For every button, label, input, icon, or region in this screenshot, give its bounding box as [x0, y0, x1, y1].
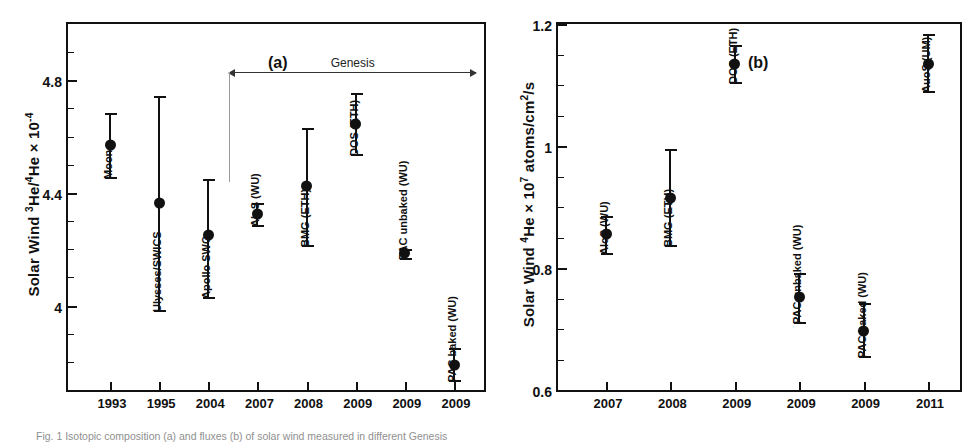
y-axis-tick-minor	[68, 108, 74, 109]
x-axis-tick: 2011	[928, 382, 930, 390]
panel-a-plot-area: (a) 44.44.819931995200420072008200920092…	[66, 22, 486, 392]
x-axis-tick-label: 2009	[343, 396, 372, 411]
error-bar-cap-upper	[665, 149, 677, 151]
figure-caption: Fig. 1 Isotopic composition (a) and flux…	[36, 430, 956, 444]
y-axis-tick-minor	[558, 329, 564, 330]
data-point-label: BMG (ETH)	[299, 189, 311, 247]
y-axis-tick-minor	[68, 221, 74, 222]
y-axis-tick-minor	[68, 249, 74, 250]
y-axis-tick-minor	[558, 116, 564, 117]
x-axis-tick-label: 2008	[294, 396, 323, 411]
data-point-label: PAC unbaked (WU)	[791, 224, 803, 323]
error-bar-cap-upper	[105, 113, 117, 115]
y-axis-tick-label: 4.4	[43, 187, 62, 203]
y-axis-tick-label: 4.8	[43, 74, 62, 90]
data-point-label: PAC baked (WU)	[446, 296, 458, 382]
y-axis-tick-minor	[68, 362, 74, 363]
x-axis-tick-label: 2007	[594, 396, 623, 411]
y-axis-tick-label: 4	[54, 300, 62, 316]
data-point-label: Apollo SWC	[200, 236, 212, 299]
panel-b-tag: (b)	[748, 54, 768, 72]
y-axis-tick-major: 4	[68, 306, 77, 308]
data-point-label: PAC unbaked (WU)	[397, 160, 409, 259]
x-axis-tick: 2008	[307, 382, 309, 390]
y-axis-tick-major: 4.8	[68, 80, 77, 82]
data-point-label: AloS (WU)	[598, 201, 610, 255]
y-axis-tick-major: 0.8	[558, 268, 567, 270]
data-point-label: AloS (WU)	[249, 174, 261, 228]
panel-a-tag: (a)	[268, 54, 288, 72]
x-axis-tick: 2009	[799, 382, 801, 390]
y-axis-tick-label: 0.6	[533, 384, 552, 400]
data-marker	[154, 197, 165, 208]
error-bar-cap-upper	[351, 93, 363, 95]
x-axis-tick-label: 2007	[245, 396, 274, 411]
x-axis-tick-label: 2011	[916, 396, 944, 411]
x-axis-tick-label: 2009	[851, 396, 880, 411]
y-axis-tick-minor	[558, 55, 564, 56]
y-axis-tick-minor	[68, 165, 74, 166]
genesis-range-arrow	[229, 72, 476, 73]
error-bar-cap-upper	[302, 128, 314, 130]
error-bar-cap-upper	[203, 179, 215, 181]
panel-b-plot-area: (b) 0.60.811.2200720082009200920092011Al…	[556, 22, 962, 392]
x-axis-tick: 1993	[110, 382, 112, 390]
y-axis-tick-minor	[558, 177, 564, 178]
genesis-range-guide	[229, 72, 230, 182]
x-axis-tick-label: 2009	[722, 396, 751, 411]
x-axis-tick-label: 2004	[196, 396, 225, 411]
y-axis-tick-major: 0.6	[558, 390, 567, 392]
data-point-label: DOS (ETH)	[727, 28, 739, 84]
y-axis-tick-major: 4.4	[68, 193, 77, 195]
y-axis-tick-minor	[68, 137, 74, 138]
x-axis-tick: 2009	[864, 382, 866, 390]
data-point-label: PAC baked (WU)	[856, 272, 868, 358]
chart-panel-b: Solar Wind 4He × 107 atoms/cm2/s (b) 0.6…	[492, 0, 977, 420]
x-axis-tick-label: 1993	[98, 396, 127, 411]
x-axis-tick: 1995	[159, 382, 161, 390]
panel-b-y-axis-label: Solar Wind 4He × 107 atoms/cm2/s	[520, 55, 537, 355]
x-axis-tick: 2009	[735, 382, 737, 390]
y-axis-tick-major: 1.2	[558, 24, 567, 26]
x-axis-tick-label: 1995	[147, 396, 176, 411]
y-axis-tick-minor	[68, 334, 74, 335]
x-axis-tick: 2007	[257, 382, 259, 390]
panel-a-y-axis-label: Solar Wind 3He/4He × 10-4	[25, 55, 42, 355]
y-axis-tick-major: 1	[558, 146, 567, 148]
x-axis-tick: 2009	[356, 382, 358, 390]
y-axis-tick-label: 0.8	[533, 262, 552, 278]
x-axis-tick: 2009	[454, 382, 456, 390]
genesis-annotation-label: Genesis	[326, 56, 380, 70]
data-point-label: Moon	[102, 150, 114, 179]
data-point-label: BMG (ETH)	[662, 189, 674, 247]
y-axis-tick-label: 1	[544, 140, 552, 156]
y-axis-tick-minor	[558, 360, 564, 361]
y-axis-tick-minor	[558, 85, 564, 86]
data-point-label: DOS (ETH)	[348, 99, 360, 155]
y-axis-tick-minor	[558, 299, 564, 300]
x-axis-tick: 2007	[606, 382, 608, 390]
figure-solar-wind-helium: Solar Wind 3He/4He × 10-4 (a) 44.44.8199…	[0, 0, 977, 446]
y-axis-tick-minor	[68, 52, 74, 53]
data-point-label: AuoS (UM)	[920, 37, 932, 93]
y-axis-tick-minor	[558, 207, 564, 208]
data-point-label: Ulysses/SWICS	[151, 231, 163, 312]
x-axis-tick-label: 2009	[392, 396, 421, 411]
chart-panel-a: Solar Wind 3He/4He × 10-4 (a) 44.44.8199…	[0, 0, 492, 420]
x-axis-tick: 2009	[405, 382, 407, 390]
y-axis-tick-minor	[68, 277, 74, 278]
x-axis-tick-label: 2009	[787, 396, 816, 411]
error-bar-cap-upper	[154, 96, 166, 98]
x-axis-tick-label: 2008	[658, 396, 687, 411]
x-axis-tick: 2008	[670, 382, 672, 390]
x-axis-tick-label: 2009	[442, 396, 471, 411]
y-axis-tick-label: 1.2	[533, 18, 552, 34]
y-axis-tick-minor	[558, 238, 564, 239]
x-axis-tick: 2004	[208, 382, 210, 390]
